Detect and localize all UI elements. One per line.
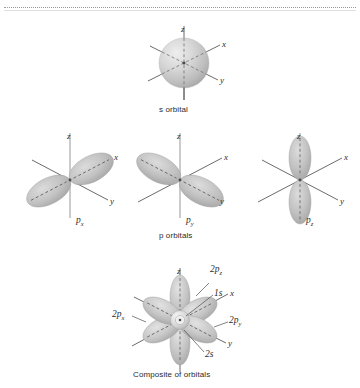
orbital-figure: x y z s orbital x y z px x y z py x y z … (0, 0, 360, 388)
pz-orbital-group (258, 133, 342, 224)
s-orbital-group (148, 26, 220, 100)
py-orbital-group (131, 133, 228, 218)
px-orbital-group (21, 133, 118, 218)
composite-orbital-group (132, 268, 228, 372)
orbital-diagram-svg (0, 0, 360, 388)
